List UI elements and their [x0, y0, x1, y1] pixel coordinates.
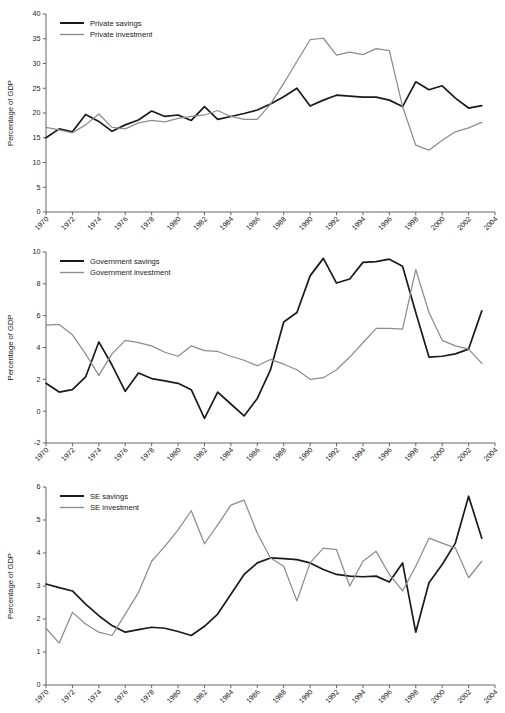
y-tick-label: 3 [37, 581, 41, 590]
y-tick-label: 2 [37, 375, 41, 384]
y-tick-label: 30 [33, 59, 41, 68]
series-line-savings [46, 82, 482, 138]
x-tick-label: 1974 [86, 688, 104, 706]
y-tick-label: 6 [37, 482, 41, 491]
x-tick-label: 1992 [323, 688, 341, 706]
x-tick-label: 1996 [376, 446, 394, 464]
x-tick-label: 2004 [482, 215, 500, 233]
chart-panel-government: -202468101970197219741976197819801982198… [0, 240, 505, 471]
series-group [46, 496, 482, 643]
y-tick-label: 5 [37, 183, 41, 192]
x-tick-label: 1996 [376, 215, 394, 233]
y-axis-title: Percentage of GDP [6, 553, 15, 619]
chart-government: -202468101970197219741976197819801982198… [0, 240, 505, 471]
series-group [46, 258, 482, 418]
x-tick-label: 1988 [270, 688, 288, 706]
x-tick-label: 1990 [297, 446, 315, 464]
y-axis-ticks: 0123456 [37, 482, 47, 689]
x-tick-label: 1970 [33, 688, 51, 706]
y-axis-title: Percentage of GDP [6, 80, 15, 146]
x-tick-label: 1972 [59, 688, 77, 706]
x-tick-label: 1998 [403, 215, 421, 233]
x-tick-label: 1994 [350, 688, 368, 706]
y-tick-label: 0 [37, 407, 41, 416]
x-tick-label: 1998 [403, 688, 421, 706]
x-tick-label: 2000 [429, 215, 447, 233]
chart-panel-private: 0510152025303540197019721974197619781980… [0, 0, 505, 240]
legend-label-savings: Government savings [90, 257, 160, 266]
x-tick-label: 1990 [297, 215, 315, 233]
series-group [46, 38, 482, 150]
chart-se: 0123456197019721974197619781980198219841… [0, 471, 505, 713]
x-tick-label: 1972 [59, 446, 77, 464]
y-tick-label: -2 [34, 438, 40, 447]
y-tick-label: 35 [33, 34, 41, 43]
x-tick-label: 1978 [138, 688, 156, 706]
x-tick-label: 1980 [165, 446, 183, 464]
y-tick-label: 0 [37, 680, 41, 689]
y-tick-label: 8 [37, 279, 41, 288]
x-axis-ticks: 1970197219741976197819801982198419861988… [33, 443, 500, 463]
y-tick-label: 20 [33, 108, 41, 117]
x-tick-label: 1980 [165, 215, 183, 233]
x-tick-label: 1970 [33, 215, 51, 233]
y-tick-label: 40 [33, 9, 41, 18]
y-tick-label: 10 [33, 158, 41, 167]
y-tick-label: 15 [33, 133, 41, 142]
legend-label-savings: SE savings [90, 492, 128, 501]
x-tick-label: 2000 [429, 688, 447, 706]
x-tick-label: 2000 [429, 446, 447, 464]
x-tick-label: 1970 [33, 446, 51, 464]
legend: Government savingsGovernment investment [60, 257, 172, 278]
legend: Private savingsPrivate investment [60, 19, 153, 40]
x-tick-label: 1988 [270, 215, 288, 233]
x-tick-label: 2004 [482, 446, 500, 464]
x-tick-label: 1984 [218, 215, 236, 233]
x-tick-label: 1980 [165, 688, 183, 706]
axes [46, 14, 495, 212]
y-tick-label: 1 [37, 647, 41, 656]
x-tick-label: 1996 [376, 688, 394, 706]
x-tick-label: 1982 [191, 215, 209, 233]
x-tick-label: 1990 [297, 688, 315, 706]
legend: SE savingsSE investment [60, 492, 140, 513]
legend-label-investment: Government investment [90, 268, 172, 277]
axes [46, 252, 495, 443]
y-axis-title: Percentage of GDP [6, 315, 15, 381]
series-line-investment [46, 38, 482, 150]
x-tick-label: 2002 [455, 446, 473, 464]
series-line-savings [46, 258, 482, 418]
chart-panel-se: 0123456197019721974197619781980198219841… [0, 471, 505, 713]
y-axis-ticks: 0510152025303540 [33, 9, 47, 216]
series-line-investment [46, 500, 482, 643]
y-tick-label: 0 [37, 207, 41, 216]
y-tick-label: 2 [37, 614, 41, 623]
x-tick-label: 1992 [323, 446, 341, 464]
x-tick-label: 1998 [403, 446, 421, 464]
legend-label-investment: SE investment [90, 503, 140, 512]
x-axis-ticks: 1970197219741976197819801982198419861988… [33, 212, 500, 232]
y-tick-label: 4 [37, 343, 41, 352]
x-tick-label: 1976 [112, 215, 130, 233]
x-tick-label: 1984 [218, 446, 236, 464]
x-tick-label: 1978 [138, 215, 156, 233]
x-tick-label: 1992 [323, 215, 341, 233]
x-tick-label: 1982 [191, 446, 209, 464]
x-tick-label: 2004 [482, 688, 500, 706]
x-tick-label: 1986 [244, 446, 262, 464]
x-tick-label: 1972 [59, 215, 77, 233]
x-tick-label: 1974 [86, 215, 104, 233]
x-tick-label: 1994 [350, 215, 368, 233]
savings-investment-figure: 0510152025303540197019721974197619781980… [0, 0, 505, 713]
y-tick-label: 10 [33, 247, 41, 256]
x-tick-label: 1982 [191, 688, 209, 706]
x-tick-label: 1984 [218, 688, 236, 706]
x-tick-label: 1974 [86, 446, 104, 464]
x-tick-label: 1986 [244, 215, 262, 233]
chart-private: 0510152025303540197019721974197619781980… [0, 0, 505, 240]
x-tick-label: 1994 [350, 446, 368, 464]
y-axis-ticks: -20246810 [33, 247, 47, 447]
y-tick-label: 5 [37, 515, 41, 524]
y-tick-label: 4 [37, 548, 41, 557]
x-tick-label: 1976 [112, 446, 130, 464]
